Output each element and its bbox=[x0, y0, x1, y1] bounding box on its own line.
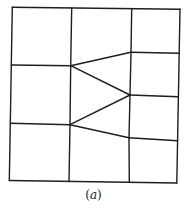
left-edge-line bbox=[9, 7, 12, 180]
vertical-2-upper-line bbox=[131, 9, 132, 53]
diagonal-A-C-line bbox=[71, 52, 131, 65]
horizontal-left-1-line bbox=[11, 65, 70, 66]
figure-caption: (a) bbox=[0, 188, 187, 202]
horizontal-right-3-line bbox=[129, 138, 178, 141]
vertical-1-middle-line bbox=[70, 66, 71, 125]
vertical-1-lower-line bbox=[69, 125, 70, 182]
diagonal-B-D-line bbox=[70, 95, 130, 125]
top-edge-line bbox=[12, 7, 180, 9]
vertical-2-b-line bbox=[129, 95, 130, 138]
caption-close-paren: ) bbox=[97, 188, 102, 202]
mesh-diagram bbox=[0, 0, 187, 208]
horizontal-right-1-line bbox=[131, 52, 179, 53]
vertical-2-a-line bbox=[130, 52, 131, 95]
horizontal-left-2-line bbox=[10, 123, 70, 124]
horizontal-right-2-line bbox=[130, 95, 178, 97]
caption-label: a bbox=[90, 188, 97, 202]
diagonal-B-E-line bbox=[70, 125, 129, 138]
vertical-1-upper-line bbox=[71, 8, 72, 66]
diagonal-A-D-line bbox=[71, 66, 130, 95]
bottom-edge-line bbox=[9, 181, 177, 184]
